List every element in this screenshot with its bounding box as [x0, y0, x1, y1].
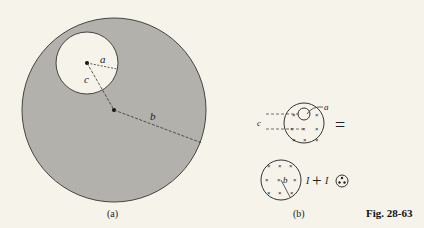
svg-text:×: ×: [302, 126, 306, 132]
current-label-2: I: [324, 175, 329, 186]
svg-text:×: ×: [290, 126, 294, 132]
plus-sign: +: [312, 171, 322, 190]
svg-text:×: ×: [292, 137, 296, 143]
panel-a: a c b (a): [22, 18, 206, 220]
label-a-top: a: [324, 102, 329, 112]
svg-text:×: ×: [293, 177, 297, 183]
svg-text:×: ×: [265, 177, 269, 183]
svg-text:×: ×: [315, 126, 319, 132]
figure-caption: Fig. 28-63: [366, 207, 413, 219]
svg-text:×: ×: [289, 163, 293, 169]
svg-text:×: ×: [303, 137, 307, 143]
svg-text:×: ×: [315, 112, 319, 118]
dot-3: [343, 181, 345, 183]
svg-text:×: ×: [278, 163, 282, 169]
equals-sign: =: [335, 115, 345, 135]
svg-text:×: ×: [292, 112, 296, 118]
x-marks-bottom: ××× ××× ×××: [265, 163, 297, 196]
current-label-1: I: [305, 175, 310, 186]
label-b: b: [150, 110, 156, 122]
label-b-bottom: b: [283, 175, 288, 185]
svg-text:×: ×: [267, 190, 271, 196]
dot-1: [341, 177, 343, 179]
svg-text:×: ×: [315, 137, 319, 143]
top-small-circle: [298, 108, 310, 120]
svg-text:×: ×: [290, 190, 294, 196]
label-c-top: c: [257, 118, 261, 128]
x-marks-top: ×× ××× ×××: [290, 112, 319, 143]
svg-text:×: ×: [267, 163, 271, 169]
panel-b-top: a c ×× ××× ××× =: [257, 102, 345, 143]
svg-text:×: ×: [278, 190, 282, 196]
panel-b-bottom: ××× ××× ××× b I + I (b): [261, 160, 348, 220]
panel-b-label: (b): [293, 208, 305, 220]
figure-canvas: a c b (a) a c ×× ××× ××× = ××× ××× ××× b…: [0, 0, 424, 228]
panel-a-label: (a): [107, 208, 118, 220]
label-a: a: [100, 53, 106, 65]
dot-2: [338, 181, 340, 183]
svg-text:×: ×: [277, 177, 281, 183]
label-c: c: [84, 73, 89, 85]
